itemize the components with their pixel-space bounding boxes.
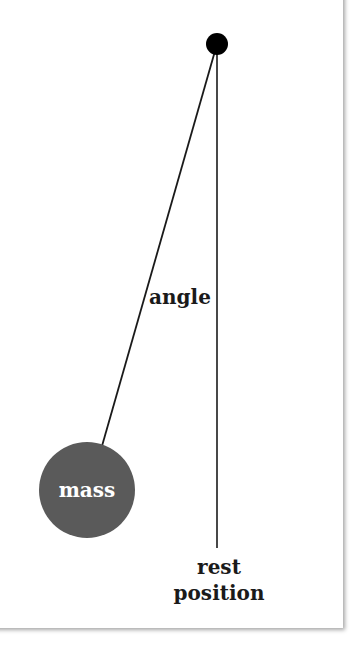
pendulum-string: [102, 44, 217, 446]
pivot-point: [206, 33, 228, 55]
rest-position-label-line2: position: [174, 581, 265, 605]
diagram-canvas: mass angle rest position: [0, 0, 364, 656]
mass-label: mass: [59, 478, 116, 502]
rest-position-label-line1: rest: [197, 555, 242, 579]
angle-label: angle: [149, 285, 211, 309]
pendulum-diagram: mass angle rest position: [0, 0, 364, 656]
